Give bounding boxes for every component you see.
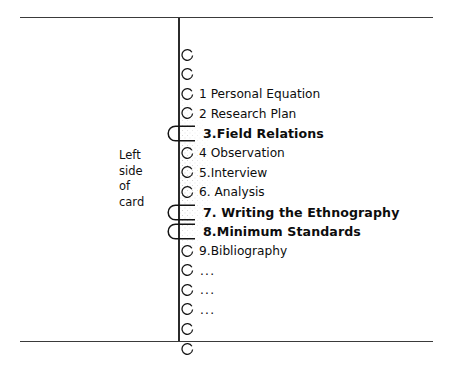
tab-bracket-icon [166, 223, 196, 240]
card-list-row[interactable]: 9.Bibliography [178, 242, 438, 262]
card-list-row-label: ... [200, 301, 215, 321]
card-list-row-label: 1 Personal Equation [199, 85, 320, 105]
card-list-row[interactable]: 3.Field Relations [178, 124, 438, 144]
card-list-row-label: 7. Writing the Ethnography [203, 203, 399, 223]
card-list-row-label: 6. Analysis [199, 183, 265, 203]
circle-hole-icon [181, 245, 194, 258]
card-item-list: 1 Personal Equation2 Research Plan3.Fiel… [178, 46, 438, 360]
circle-hole-icon [181, 343, 194, 356]
card-list-row-label: ... [200, 281, 215, 301]
card-list-row[interactable]: 8.Minimum Standards [178, 222, 438, 242]
circle-hole-icon [181, 303, 194, 316]
card-list-row[interactable] [178, 46, 438, 66]
circle-hole-icon [181, 49, 194, 62]
left-side-of-card-caption: Left side of card [119, 148, 171, 210]
card-list-row-label: 2 Research Plan [199, 105, 296, 125]
circle-hole-icon [181, 186, 194, 199]
card-list-row[interactable]: ... [178, 281, 438, 301]
caption-line-1: Left [119, 148, 171, 164]
card-list-row[interactable] [178, 340, 438, 360]
card-list-row[interactable]: 5.Interview [178, 164, 438, 184]
tab-bracket-icon [166, 125, 196, 142]
circle-hole-icon [181, 284, 194, 297]
circle-hole-icon [181, 88, 194, 101]
card-list-row[interactable]: 7. Writing the Ethnography [178, 203, 438, 223]
card-list-row[interactable] [178, 66, 438, 86]
card-list-row-label: 5.Interview [199, 164, 267, 184]
card-list-row-label: ... [200, 262, 215, 282]
circle-hole-icon [181, 323, 194, 336]
card-list-row[interactable]: 6. Analysis [178, 183, 438, 203]
card-list-row-label: 8.Minimum Standards [203, 222, 361, 242]
card-list-row-label: 3.Field Relations [203, 124, 324, 144]
circle-hole-icon [181, 147, 194, 160]
card-list-row-label: 4 Observation [199, 144, 285, 164]
circle-hole-icon [181, 166, 194, 179]
card-list-row[interactable]: 4 Observation [178, 144, 438, 164]
caption-line-3: of [119, 179, 171, 195]
circle-hole-icon [181, 68, 194, 81]
tab-bracket-icon [166, 204, 196, 221]
card-list-row[interactable]: ... [178, 301, 438, 321]
circle-hole-icon [181, 107, 194, 120]
card-list-row[interactable]: ... [178, 262, 438, 282]
top-rule [20, 17, 433, 18]
circle-hole-icon [181, 264, 194, 277]
card-list-row[interactable]: 2 Research Plan [178, 105, 438, 125]
card-list-row[interactable]: 1 Personal Equation [178, 85, 438, 105]
card-list-row-label: 9.Bibliography [199, 242, 287, 262]
caption-line-2: side [119, 164, 171, 180]
card-list-row[interactable] [178, 320, 438, 340]
caption-line-4: card [119, 195, 171, 211]
